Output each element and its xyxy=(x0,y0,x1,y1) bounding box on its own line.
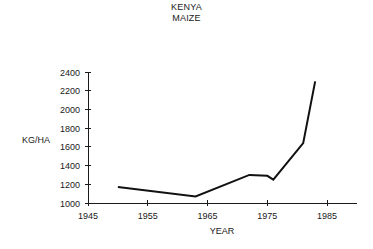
x-tick-label: 1965 xyxy=(198,211,218,221)
x-tick-label: 1975 xyxy=(257,211,277,221)
x-tick-label: 1985 xyxy=(317,211,337,221)
x-tick-label: 1955 xyxy=(138,211,158,221)
y-tick-label: 1000 xyxy=(60,199,80,209)
y-tick-label: 2000 xyxy=(60,105,80,115)
plot-area: 10001200140016001800200022002400 1945195… xyxy=(0,0,373,249)
y-tick-label: 2400 xyxy=(60,68,80,78)
chart-container: KENYA MAIZE 1000120014001600180020002200… xyxy=(0,0,373,249)
y-tick-label-group: 10001200140016001800200022002400 xyxy=(60,68,80,209)
y-tick-label: 1200 xyxy=(60,180,80,190)
y-axis-label: KG/HA xyxy=(22,135,50,145)
tick-mark-group xyxy=(85,72,327,206)
data-series-line xyxy=(118,81,315,196)
y-tick-label: 1800 xyxy=(60,124,80,134)
x-axis-label: YEAR xyxy=(210,226,235,236)
y-tick-label: 1600 xyxy=(60,142,80,152)
y-tick-label: 1400 xyxy=(60,161,80,171)
x-tick-label-group: 19451955196519751985 xyxy=(78,211,337,221)
x-tick-label: 1945 xyxy=(78,211,98,221)
y-tick-label: 2200 xyxy=(60,86,80,96)
